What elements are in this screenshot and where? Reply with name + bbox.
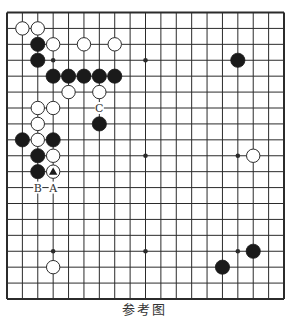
star-point-icon xyxy=(143,153,148,158)
black-stone xyxy=(46,69,60,83)
black-stone xyxy=(31,165,45,179)
black-stone xyxy=(246,244,260,258)
black-stone xyxy=(46,133,60,147)
point-label: C xyxy=(95,102,103,115)
star-point-icon xyxy=(236,153,241,158)
black-stone xyxy=(108,69,122,83)
star-point-icon xyxy=(236,249,241,254)
white-stone xyxy=(93,85,106,98)
white-stone xyxy=(31,101,44,114)
white-stone xyxy=(247,149,260,162)
black-stone xyxy=(215,260,229,274)
black-stone xyxy=(231,53,245,67)
black-stone xyxy=(15,133,29,147)
white-stone xyxy=(77,38,90,51)
black-stone xyxy=(77,69,91,83)
white-stone xyxy=(46,38,59,51)
star-point-icon xyxy=(51,249,56,254)
point-label: A xyxy=(48,182,58,195)
diagram-caption: 参考图 xyxy=(0,303,288,316)
point-label: B xyxy=(34,182,42,195)
white-stone xyxy=(46,260,59,273)
star-point-icon xyxy=(143,249,148,254)
white-stone xyxy=(46,149,59,162)
white-stone xyxy=(46,101,59,114)
black-stone xyxy=(92,69,106,83)
white-stone xyxy=(16,22,29,35)
white-stone xyxy=(31,22,44,35)
star-point-icon xyxy=(143,58,148,63)
black-stone xyxy=(31,53,45,67)
white-stone xyxy=(31,117,44,130)
white-stone xyxy=(62,85,75,98)
black-stone xyxy=(31,149,45,163)
star-point-icon xyxy=(51,58,56,63)
black-stone xyxy=(31,37,45,51)
black-stone xyxy=(92,117,106,131)
white-stone xyxy=(108,38,121,51)
white-stone xyxy=(31,133,44,146)
black-stone xyxy=(61,69,75,83)
